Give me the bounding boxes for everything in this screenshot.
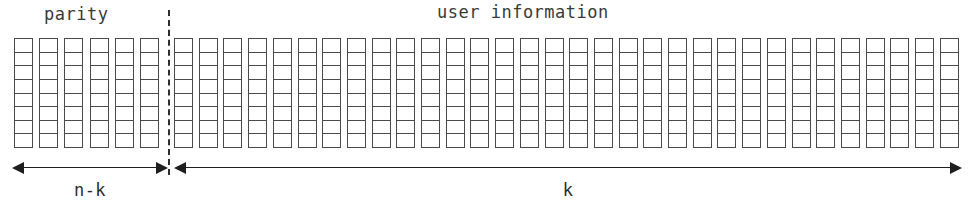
bit-cell (348, 80, 365, 94)
bit-cell (175, 121, 192, 135)
bit-cell (644, 134, 661, 147)
bit-cell (471, 53, 488, 67)
bit-cell (397, 134, 414, 147)
bit-cell (595, 94, 612, 108)
bit-cell (941, 121, 958, 135)
bit-cell (40, 121, 57, 135)
bit-cell (200, 80, 217, 94)
bit-cell (175, 66, 192, 80)
bit-cell (768, 121, 785, 135)
bit-cell (65, 80, 82, 94)
bit-cell (323, 80, 340, 94)
bit-cell (842, 134, 859, 147)
bit-cell (891, 94, 908, 108)
bit-cell (397, 66, 414, 80)
dimension-line (181, 167, 955, 168)
bit-cell (620, 80, 637, 94)
bit-cell (175, 53, 192, 67)
bit-cell (941, 107, 958, 121)
bit-cell (743, 66, 760, 80)
bit-cell (15, 53, 32, 67)
bit-cell (669, 66, 686, 80)
bit-cell (323, 94, 340, 108)
bit-cell (891, 39, 908, 53)
bit-cell (694, 80, 711, 94)
bit-cell (299, 66, 316, 80)
bit-cell (891, 66, 908, 80)
bit-cell (842, 107, 859, 121)
bit-cell (447, 94, 464, 108)
bit-cell (891, 80, 908, 94)
bit-cell (200, 134, 217, 147)
bit-cell (793, 121, 810, 135)
bit-cell (447, 80, 464, 94)
bit-cell (175, 94, 192, 108)
bit-cell (546, 80, 563, 94)
bit-cell (447, 121, 464, 135)
bit-cell (793, 134, 810, 147)
bit-cell (141, 121, 158, 135)
bit-cell (768, 39, 785, 53)
bit-cell (274, 121, 291, 135)
bit-cell (40, 53, 57, 67)
bit-cell (323, 121, 340, 135)
bit-cell (867, 53, 884, 67)
bit-cell (793, 66, 810, 80)
bit-cell (595, 134, 612, 147)
bit-cell (496, 121, 513, 135)
bit-cell (817, 80, 834, 94)
bit-cell (224, 107, 241, 121)
bit-cell (817, 134, 834, 147)
bit-cell (694, 134, 711, 147)
bit-cell (141, 107, 158, 121)
bit-cell (817, 53, 834, 67)
bit-cell (694, 39, 711, 53)
bit-cell (323, 134, 340, 147)
bit-cell (65, 107, 82, 121)
user-information-bit-column (520, 38, 539, 148)
bit-cell (471, 121, 488, 135)
bit-cell (65, 39, 82, 53)
bit-cell (175, 39, 192, 53)
user-information-bit-column (347, 38, 366, 148)
bit-cell (91, 121, 108, 135)
bit-cell (116, 80, 133, 94)
bit-cell (299, 80, 316, 94)
codeword-structure-diagram: parity user information n-k k (0, 0, 975, 209)
bit-cell (496, 134, 513, 147)
bit-cell (718, 134, 735, 147)
bit-cell (471, 80, 488, 94)
bit-cell (496, 94, 513, 108)
bit-cell (175, 134, 192, 147)
bit-cell (373, 80, 390, 94)
bit-cell (15, 121, 32, 135)
bit-cell (620, 107, 637, 121)
bit-cell (644, 94, 661, 108)
arrowhead-left-icon (12, 162, 24, 174)
bit-cell (743, 53, 760, 67)
user-information-bit-column (890, 38, 909, 148)
bit-cell (842, 121, 859, 135)
bit-cell (916, 94, 933, 108)
user-information-bit-column (248, 38, 267, 148)
bit-cell (422, 80, 439, 94)
user-information-bit-column (446, 38, 465, 148)
bit-cell (447, 53, 464, 67)
bit-cell (422, 66, 439, 80)
bit-cell (224, 80, 241, 94)
bit-cell (274, 39, 291, 53)
bit-cell (323, 107, 340, 121)
bit-cell (867, 80, 884, 94)
bit-cell (743, 134, 760, 147)
bit-cell (793, 107, 810, 121)
bit-cell (817, 107, 834, 121)
bit-cell (65, 134, 82, 147)
bit-cell (595, 107, 612, 121)
bit-cell (768, 107, 785, 121)
bit-cell (595, 66, 612, 80)
bit-cell (249, 66, 266, 80)
bit-cell (768, 53, 785, 67)
bit-cell (141, 94, 158, 108)
bit-cell (224, 94, 241, 108)
bit-cell (224, 134, 241, 147)
